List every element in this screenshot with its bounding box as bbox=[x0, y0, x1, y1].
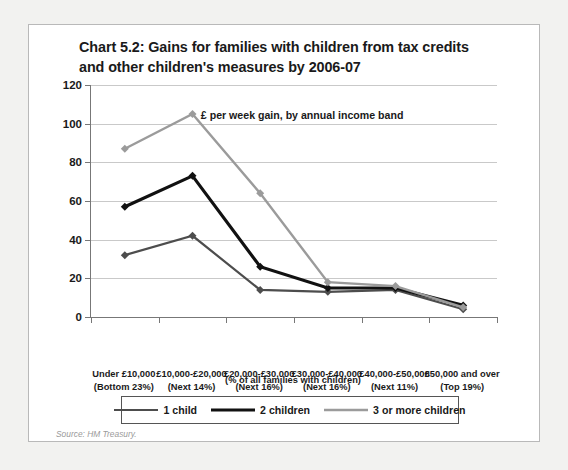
y-axis-label: 60 bbox=[69, 195, 82, 207]
plot-annotation: £ per week gain, by annual income band bbox=[201, 109, 404, 121]
legend-label: 3 or more children bbox=[373, 404, 465, 416]
y-axis-label: 80 bbox=[69, 156, 82, 168]
screenshot-canvas: Chart 5.2: Gains for families with child… bbox=[0, 0, 568, 470]
y-axis-label: 100 bbox=[63, 118, 82, 130]
chart-legend: 1 child2 children3 or more children bbox=[121, 396, 459, 424]
legend-label: 1 child bbox=[163, 404, 197, 416]
chart-title-line-2: and other children's measures by 2006-07 bbox=[79, 57, 519, 77]
legend-item[interactable]: 1 child bbox=[107, 404, 204, 416]
plot-frame: 020406080100120 £ per week gain, by annu… bbox=[90, 85, 497, 318]
x-axis-category-labels: Under £10,000(Bottom 23%)£10,000-£20,000… bbox=[90, 317, 496, 357]
y-axis-label: 40 bbox=[69, 234, 82, 246]
y-axis-label: 120 bbox=[63, 79, 82, 91]
y-axis-label: 0 bbox=[76, 311, 82, 323]
legend-label: 2 children bbox=[260, 404, 310, 416]
legend-swatch-icon bbox=[324, 405, 368, 415]
chart-card: Chart 5.2: Gains for families with child… bbox=[28, 24, 540, 442]
series-line bbox=[125, 236, 463, 309]
legend-swatch-icon bbox=[211, 405, 255, 415]
chart-title: Chart 5.2: Gains for families with child… bbox=[79, 37, 519, 77]
legend-item[interactable]: 2 children bbox=[204, 404, 317, 416]
x-axis-caption: (% of all families with children) bbox=[90, 375, 496, 385]
source-note: Source: HM Treasury. bbox=[56, 429, 137, 439]
legend-swatch-icon bbox=[114, 405, 158, 415]
y-axis-label: 20 bbox=[69, 272, 82, 284]
legend-item[interactable]: 3 or more children bbox=[317, 404, 472, 416]
chart-title-line-1: Chart 5.2: Gains for families with child… bbox=[79, 37, 519, 57]
data-point-marker bbox=[121, 145, 129, 153]
plot-area: 020406080100120 £ per week gain, by annu… bbox=[91, 85, 497, 317]
data-point-marker bbox=[121, 251, 129, 259]
x-tick-mark bbox=[497, 317, 498, 323]
